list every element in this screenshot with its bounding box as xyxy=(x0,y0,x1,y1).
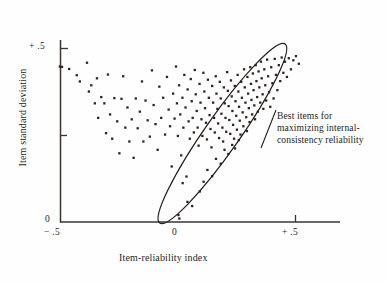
scatter-point xyxy=(172,92,174,94)
scatter-point xyxy=(245,116,247,118)
scatter-point xyxy=(235,115,237,117)
scatter-point xyxy=(141,80,143,82)
scatter-point xyxy=(269,106,271,108)
scatter-point xyxy=(132,157,134,159)
scatter-point xyxy=(142,140,144,142)
scatter-point xyxy=(295,55,297,57)
scatter-point xyxy=(139,111,141,113)
scatter-point xyxy=(215,158,217,160)
scatter-point xyxy=(201,135,203,137)
scatter-point xyxy=(208,114,210,116)
scatter-point xyxy=(59,65,61,67)
ellipse-annotation-text: Best items for maximizing internal- cons… xyxy=(277,110,385,145)
scatter-point xyxy=(147,119,149,121)
y-axis-title: Item standard deviation xyxy=(17,53,28,183)
scatter-point xyxy=(191,205,193,207)
scatter-point xyxy=(113,97,115,99)
scatter-point xyxy=(228,119,230,121)
scatter-point xyxy=(298,63,300,65)
scatter-point xyxy=(238,106,240,108)
scatter-point xyxy=(224,117,226,119)
scatter-point xyxy=(128,140,130,142)
scatter-point xyxy=(175,65,177,67)
scatter-point xyxy=(187,88,189,90)
scatter-point xyxy=(171,165,173,167)
scatter-point xyxy=(76,74,78,76)
scatter-point xyxy=(231,95,233,97)
scatter-point xyxy=(231,144,233,146)
scatter-point xyxy=(214,131,216,133)
scatter-point xyxy=(261,93,263,95)
scatter-point xyxy=(233,138,235,140)
scatter-point xyxy=(194,69,196,71)
scatter-point xyxy=(164,133,166,135)
scatter-point xyxy=(237,90,239,92)
scatter-point xyxy=(192,117,194,119)
scatter-point xyxy=(226,71,228,73)
scatter-point xyxy=(61,66,63,68)
annotation-line-3: consistency reliability xyxy=(277,134,385,146)
scatter-point xyxy=(183,74,185,76)
scatter-point xyxy=(195,93,197,95)
scatter-point xyxy=(256,96,258,98)
annotation-line-2: maximizing internal- xyxy=(277,122,385,134)
scatter-point xyxy=(124,126,126,128)
scatter-point xyxy=(100,96,102,98)
scatter-point xyxy=(198,83,200,85)
x-axis-tick-label-positive-half: + .5 xyxy=(282,227,298,237)
annotation-leader-line xyxy=(261,110,276,148)
scatter-point xyxy=(290,68,292,70)
scatter-point xyxy=(276,89,278,91)
scatter-point xyxy=(96,77,98,79)
scatter-point xyxy=(222,140,224,142)
scatter-point xyxy=(254,118,256,120)
scatter-point xyxy=(149,135,151,137)
x-axis-tick-label-negative-half: − .5 xyxy=(44,227,60,237)
scatter-point xyxy=(261,77,263,79)
scatter-point xyxy=(126,106,128,108)
scatter-point xyxy=(212,101,214,103)
scatter-point xyxy=(248,107,250,109)
scatter-point xyxy=(272,97,274,99)
scatter-point xyxy=(252,72,254,74)
scatter-point xyxy=(206,169,208,171)
annotation-line-1: Best items for xyxy=(277,110,385,122)
scatter-point xyxy=(202,72,204,74)
scatter-point xyxy=(137,127,139,129)
scatter-points-layer xyxy=(59,55,300,220)
scatter-point xyxy=(122,75,124,77)
scatter-point xyxy=(270,66,272,68)
scatter-point xyxy=(173,117,175,119)
scatter-point xyxy=(187,120,189,122)
scatter-point xyxy=(88,90,90,92)
scatter-point xyxy=(157,149,159,151)
scatter-point xyxy=(205,122,207,124)
scatter-point xyxy=(151,69,153,71)
scatter-point xyxy=(251,113,253,115)
scatter-point xyxy=(262,108,264,110)
scatter-point xyxy=(203,90,205,92)
scatter-point xyxy=(247,92,249,94)
scatter-point xyxy=(279,80,281,82)
scatter-point xyxy=(178,84,180,86)
scatter-point xyxy=(239,133,241,135)
scatter-point xyxy=(166,76,168,78)
scatter-point xyxy=(209,128,211,130)
scatter-point xyxy=(103,102,105,104)
scatter-point xyxy=(218,137,220,139)
scatter-point xyxy=(97,117,99,119)
scatter-point xyxy=(215,92,217,94)
scatter-point xyxy=(178,217,180,219)
scatter-point xyxy=(246,76,248,78)
scatter-point xyxy=(286,76,288,78)
scatter-point xyxy=(180,154,182,156)
scatter-point xyxy=(278,64,280,66)
scatter-point xyxy=(208,97,210,99)
scatter-point xyxy=(292,59,294,61)
scatter-point xyxy=(219,81,221,83)
scatter-point xyxy=(210,146,212,148)
scatter-point xyxy=(162,97,164,99)
scatter-point xyxy=(242,125,244,127)
scatter-point xyxy=(249,66,251,68)
scatter-point xyxy=(260,61,262,63)
